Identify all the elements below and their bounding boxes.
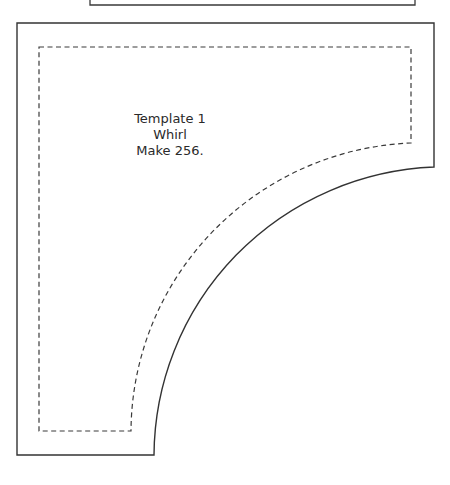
seam-line-dashed bbox=[39, 47, 411, 431]
template-name: Whirl bbox=[110, 127, 230, 143]
template-label: Template 1 Whirl Make 256. bbox=[110, 111, 230, 159]
template-instruction: Make 256. bbox=[110, 143, 230, 159]
template-title: Template 1 bbox=[110, 111, 230, 127]
previous-template-edge bbox=[90, 0, 415, 5]
template-drawing bbox=[0, 0, 450, 485]
cut-line-outline bbox=[17, 23, 434, 455]
